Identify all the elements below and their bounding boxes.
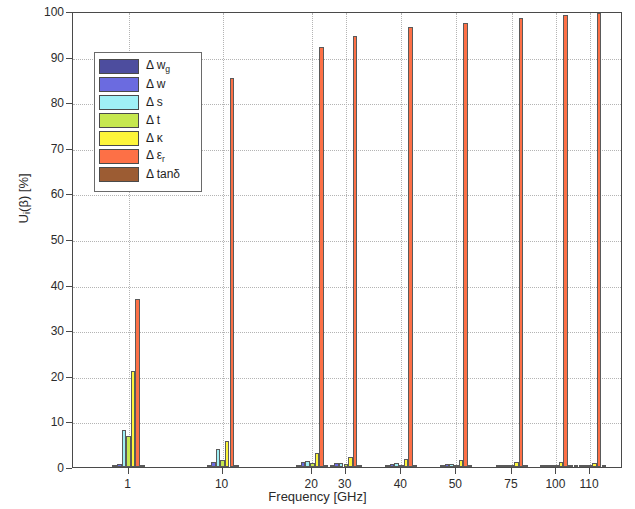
y-axis-tick-label: 60 [4, 187, 64, 201]
y-axis-tick-mark [66, 377, 72, 378]
legend-item: Δ εr [99, 147, 197, 165]
legend-swatch [99, 149, 139, 164]
legend-label: Δ w [146, 78, 165, 90]
gridline-vertical [223, 13, 224, 467]
gridline-horizontal [73, 332, 621, 333]
legend-swatch [99, 59, 139, 74]
y-axis-tick-label: 20 [4, 370, 64, 384]
gridline-vertical [401, 13, 402, 467]
legend-item: Δ tanδ [99, 165, 197, 183]
gridline-vertical [590, 13, 591, 467]
y-axis-tick-label: 90 [4, 51, 64, 65]
legend-label-subscript: r [162, 153, 165, 163]
y-axis-tick-label: 70 [4, 142, 64, 156]
bar [230, 78, 235, 467]
x-axis-tick-mark [400, 468, 401, 474]
y-axis-tick-mark [66, 331, 72, 332]
y-axis-tick-mark [66, 422, 72, 423]
y-axis-tick-label: 100 [4, 5, 64, 19]
x-axis-tick-label: 50 [449, 477, 462, 491]
legend-item: Δ w [99, 75, 197, 93]
gridline-vertical [346, 13, 347, 467]
x-axis-tick-mark [311, 468, 312, 474]
bar [135, 299, 140, 467]
bar [463, 23, 468, 467]
bar [234, 465, 239, 467]
x-axis-tick-label: 1 [124, 477, 131, 491]
y-axis-title-main: U [16, 214, 31, 223]
x-axis-tick-mark [455, 468, 456, 474]
legend-label: Δ wg [146, 59, 170, 73]
y-axis-tick-mark [66, 286, 72, 287]
legend-swatch [99, 113, 139, 128]
gridline-horizontal [73, 195, 621, 196]
y-axis-tick-mark [66, 12, 72, 13]
bar [568, 465, 573, 467]
x-axis-tick-label: 30 [338, 477, 351, 491]
gridline-vertical [312, 13, 313, 467]
bar [413, 465, 418, 467]
legend-label: Δ tanδ [146, 168, 180, 180]
gridline-horizontal [73, 287, 621, 288]
bar [468, 465, 473, 467]
bar [140, 465, 145, 467]
legend-swatch [99, 95, 139, 110]
bar [519, 18, 524, 467]
x-axis-tick-mark [128, 468, 129, 474]
bar [523, 465, 528, 467]
x-axis-tick-label: 10 [215, 477, 228, 491]
legend-item: Δ wg [99, 57, 197, 75]
legend-item: Δ s [99, 93, 197, 111]
y-axis-tick-label: 30 [4, 324, 64, 338]
legend-swatch [99, 131, 139, 146]
x-axis-tick-mark [589, 468, 590, 474]
y-axis-tick-label: 80 [4, 96, 64, 110]
gridline-horizontal [73, 378, 621, 379]
y-axis-tick-mark [66, 240, 72, 241]
legend-label: Δ κ [146, 132, 163, 144]
bar [602, 465, 607, 467]
y-axis-tick-label: 50 [4, 233, 64, 247]
gridline-horizontal [73, 423, 621, 424]
gridline-vertical [456, 13, 457, 467]
legend-label: Δ εr [146, 149, 165, 163]
x-axis-tick-mark [222, 468, 223, 474]
figure-canvas: Ui(β) [%] Frequency [GHz] Δ wgΔ wΔ sΔ tΔ… [0, 0, 635, 509]
y-axis-tick-mark [66, 58, 72, 59]
legend-item: Δ κ [99, 129, 197, 147]
y-axis-tick-mark [66, 103, 72, 104]
x-axis-tick-mark [511, 468, 512, 474]
y-axis-tick-label: 0 [4, 461, 64, 475]
gridline-vertical [512, 13, 513, 467]
y-axis-tick-mark [66, 149, 72, 150]
bar [563, 15, 568, 467]
bar [357, 465, 362, 467]
y-axis-tick-mark [66, 468, 72, 469]
x-axis-title: Frequency [GHz] [0, 489, 635, 504]
y-axis-tick-label: 10 [4, 415, 64, 429]
x-axis-tick-label: 110 [579, 477, 598, 491]
legend-label: Δ t [146, 114, 160, 126]
x-axis-tick-label: 40 [394, 477, 407, 491]
bar [319, 47, 324, 467]
x-axis-tick-mark [345, 468, 346, 474]
y-axis-tick-mark [66, 194, 72, 195]
x-axis-tick-mark [555, 468, 556, 474]
legend-swatch [99, 77, 139, 92]
legend: Δ wgΔ wΔ sΔ tΔ κΔ εrΔ tanδ [94, 52, 202, 192]
bar [408, 27, 413, 467]
legend-swatch [99, 167, 139, 182]
bar [353, 36, 358, 467]
legend-item: Δ t [99, 111, 197, 129]
bar [324, 465, 329, 467]
x-axis-tick-label: 100 [545, 477, 565, 491]
legend-label: Δ s [146, 96, 163, 108]
x-axis-tick-label: 20 [305, 477, 318, 491]
legend-label-subscript: g [165, 63, 170, 73]
bar [597, 13, 602, 467]
x-axis-tick-label: 75 [504, 477, 517, 491]
y-axis-tick-label: 40 [4, 279, 64, 293]
gridline-horizontal [73, 241, 621, 242]
gridline-vertical [556, 13, 557, 467]
